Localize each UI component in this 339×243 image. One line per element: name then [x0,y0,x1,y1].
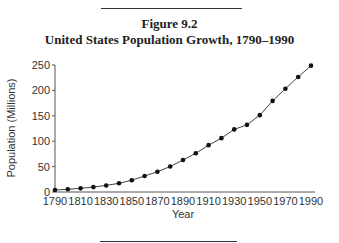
population-line [55,66,311,190]
data-point [53,188,58,193]
data-point [309,63,314,68]
x-tick-label: 1910 [196,195,220,207]
data-point [296,75,301,80]
x-tick-label: 1810 [68,195,92,207]
x-tick-label: 1930 [222,195,246,207]
y-tick-label: 200 [32,84,50,96]
data-markers [53,63,314,192]
data-point [219,136,224,141]
data-point [168,164,173,169]
data-point [91,185,96,190]
y-tick-label: 50 [38,161,50,173]
data-point [206,143,211,148]
x-tick-label: 1950 [248,195,272,207]
y-axis-title: Population (Millions) [5,78,17,177]
data-point [194,151,199,156]
data-point [142,174,147,179]
data-point [283,86,288,91]
bottom-rule [100,241,237,242]
data-point [130,178,135,183]
x-tick-label: 1850 [120,195,144,207]
y-tick-label: 150 [32,110,50,122]
chart-axes [55,65,315,192]
data-point [270,99,275,104]
x-tick-label: 1970 [273,195,297,207]
y-tick-label: 100 [32,135,50,147]
data-point [155,169,160,174]
data-point [66,187,71,192]
x-axis-title: Year [172,208,195,220]
x-tick-label: 1870 [145,195,169,207]
x-tick-label: 1790 [43,195,67,207]
data-point [117,181,122,186]
x-tick-label: 1830 [94,195,118,207]
x-tick-label: 1890 [171,195,195,207]
population-line-chart: 0501001502002501790181018301850187018901… [0,0,339,243]
data-point [104,183,109,188]
x-tick-label: 1990 [299,195,323,207]
data-point [258,113,263,118]
data-point [78,186,83,191]
data-point [245,123,250,128]
y-tick-label: 250 [32,59,50,71]
data-point [181,158,186,163]
axis-ticks: 0501001502002501790181018301850187018901… [32,59,324,207]
data-point [232,127,237,132]
